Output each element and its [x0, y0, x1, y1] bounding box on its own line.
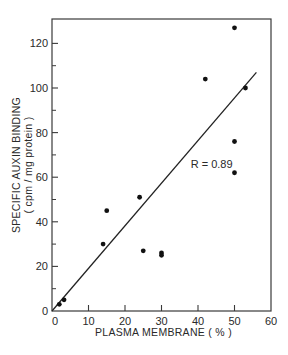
data-point: [62, 297, 67, 302]
data-point: [141, 248, 146, 253]
scatter-chart: 020406080100120 0102030405060 R = 0.89 P…: [0, 0, 288, 355]
y-axis-units: ( cpm / mg protein ): [22, 116, 34, 213]
x-tick-label: 60: [265, 315, 277, 327]
y-tick-label: 120: [30, 37, 48, 49]
data-point: [57, 302, 62, 307]
data-point: [243, 86, 248, 91]
y-tick-label: 60: [36, 171, 48, 183]
y-tick-label: 20: [36, 260, 48, 272]
x-axis-ticks: 0102030405060: [52, 305, 277, 327]
correlation-annotation: R = 0.89: [191, 158, 233, 170]
data-point: [101, 242, 106, 247]
data-point: [232, 170, 237, 175]
plot-frame: [52, 19, 271, 311]
data-point: [232, 25, 237, 30]
x-tick-label: 10: [82, 315, 94, 327]
regression-line: [52, 72, 256, 311]
y-tick-label: 100: [30, 82, 48, 94]
data-point: [203, 77, 208, 82]
y-tick-label: 0: [42, 305, 48, 317]
plot-border: [52, 19, 271, 311]
x-tick-label: 0: [52, 315, 58, 327]
data-point: [159, 253, 164, 258]
y-tick-label: 80: [36, 127, 48, 139]
y-tick-label: 40: [36, 216, 48, 228]
y-axis-title: SPECIFIC AUXIN BINDING: [10, 97, 22, 233]
x-axis-title: PLASMA MEMBRANE ( % ): [95, 326, 232, 338]
data-point: [104, 208, 109, 213]
data-point: [137, 195, 142, 200]
fit-line: [52, 72, 256, 311]
data-point: [232, 139, 237, 144]
